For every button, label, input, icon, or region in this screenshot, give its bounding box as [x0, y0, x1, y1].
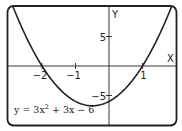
x-tick-label: −1	[66, 70, 81, 81]
y-tick-label: −5	[91, 91, 106, 102]
y-axis-label: Y	[111, 9, 119, 20]
x-axis-label: X	[167, 53, 174, 64]
equation-label: y = 3x2 + 3x − 6	[13, 103, 94, 115]
x-tick-label: −2	[33, 70, 48, 81]
y-tick-label: 5	[100, 32, 106, 43]
parabola-plot: −2−11 5−5 X Y y = 3x2 + 3x − 6	[0, 0, 182, 131]
x-tick-label: 1	[140, 70, 146, 81]
